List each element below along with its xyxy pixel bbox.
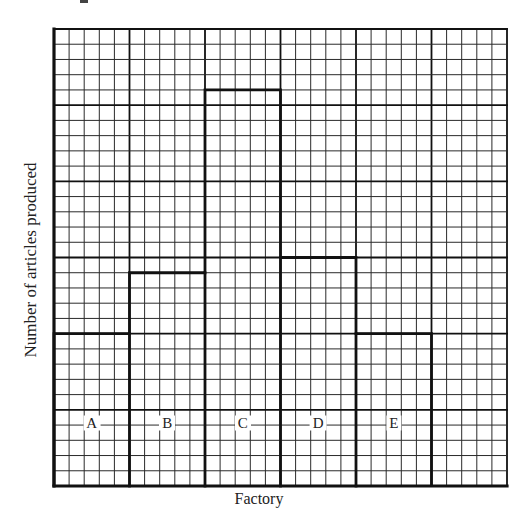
category-label-e: E	[386, 416, 401, 431]
category-label-a: A	[83, 416, 100, 431]
x-axis-label: Factory	[235, 490, 284, 508]
category-label-c: C	[235, 416, 251, 431]
histogram-chart	[0, 0, 526, 525]
category-label-d: D	[310, 416, 327, 431]
category-label-b: B	[159, 416, 175, 431]
cropped-text-fragment	[80, 0, 88, 3]
y-axis-label: Number of articles produced	[21, 163, 41, 358]
